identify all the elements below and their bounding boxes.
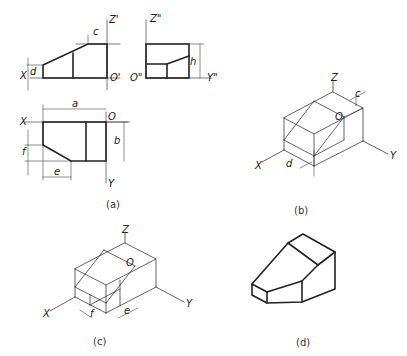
label-side-z: Z" xyxy=(150,13,161,24)
label-b-z: Z xyxy=(331,72,338,83)
label-c-y: Y xyxy=(186,298,192,309)
iso-view-d xyxy=(252,234,335,303)
label-dim-c: c xyxy=(93,26,99,37)
label-dim-f: f xyxy=(22,146,26,157)
label-dim-d: d xyxy=(30,66,36,77)
label-front-o: O' xyxy=(110,72,121,83)
label-c-e: e xyxy=(124,305,130,316)
label-top-y: Y xyxy=(108,178,114,189)
label-side-o: O" xyxy=(130,72,142,83)
label-b-y: Y xyxy=(390,150,396,161)
iso-view-c xyxy=(50,232,184,318)
drawing xyxy=(0,0,407,356)
label-c-x: X xyxy=(43,308,50,319)
diagram-canvas: Z' X O' c d Z" O" Y" h a X O Y b e f (a)… xyxy=(0,0,407,356)
label-dim-h: h xyxy=(190,56,196,67)
label-top-x: X xyxy=(20,116,27,127)
caption-d: (d) xyxy=(296,337,310,348)
caption-b: (b) xyxy=(294,205,308,216)
label-b-x: X xyxy=(255,160,262,171)
label-dim-b: b xyxy=(114,135,120,146)
label-front-x: X xyxy=(20,70,27,81)
label-side-y: Y" xyxy=(207,72,218,83)
label-dim-e: e xyxy=(54,166,60,177)
label-front-z: Z' xyxy=(109,14,119,25)
label-b-c: c xyxy=(355,88,361,99)
side-view xyxy=(146,20,212,78)
iso-view-b xyxy=(262,80,388,176)
caption-c: (c) xyxy=(93,336,106,347)
label-c-o: O xyxy=(126,257,134,268)
label-c-f: f xyxy=(90,308,94,319)
label-b-d: d xyxy=(286,158,292,169)
caption-a: (a) xyxy=(106,199,120,210)
label-top-o: O xyxy=(108,111,116,122)
label-c-z: Z xyxy=(122,224,129,235)
label-dim-a: a xyxy=(72,98,78,109)
front-view xyxy=(27,20,120,90)
label-b-o: O xyxy=(335,111,343,122)
